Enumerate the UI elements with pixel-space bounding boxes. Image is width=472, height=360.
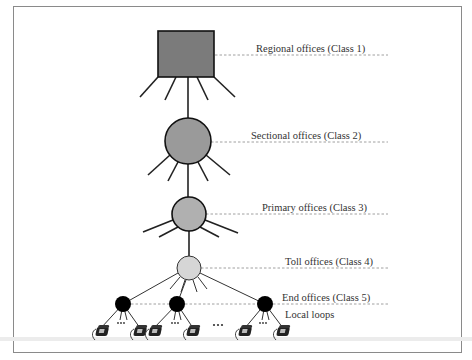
label-regional-offices: Regional offices (Class 1) — [256, 43, 365, 55]
end-office-node — [257, 296, 273, 312]
end-office-node — [169, 296, 185, 312]
end-office-node — [115, 296, 131, 312]
telephone-icon — [273, 325, 290, 340]
label-primary-offices: Primary offices (Class 3) — [262, 202, 367, 214]
toll-office-node — [177, 256, 201, 280]
regional-office-node — [158, 31, 214, 77]
label-local-loops: Local loops — [285, 309, 334, 321]
primary-office-node — [172, 197, 206, 231]
label-end-offices: End offices (Class 5) — [282, 292, 370, 304]
telephone-icon — [235, 325, 252, 340]
hierarchy-diagram — [0, 0, 472, 360]
sectional-office-node — [165, 118, 211, 164]
telephone-icon — [183, 325, 200, 340]
telephone-icon — [130, 325, 147, 340]
telephone-icon — [92, 325, 109, 340]
label-sectional-offices: Sectional offices (Class 2) — [251, 130, 361, 142]
telephone-icon — [145, 325, 162, 340]
label-toll-offices: Toll offices (Class 4) — [285, 256, 373, 268]
